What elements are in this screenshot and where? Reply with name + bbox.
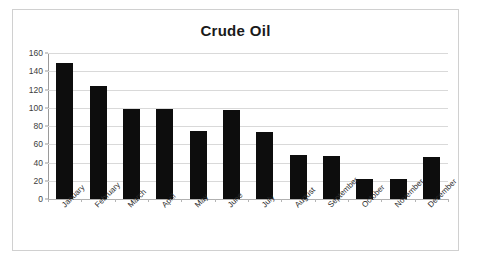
y-tick-label: 120 — [29, 85, 43, 95]
y-tick-label: 40 — [34, 158, 43, 168]
bar — [123, 109, 140, 199]
gridline — [48, 144, 448, 145]
bar — [156, 109, 173, 199]
x-tick-mark — [115, 199, 116, 202]
gridline — [48, 126, 448, 127]
y-tick-mark — [45, 71, 48, 72]
gridline — [48, 90, 448, 91]
y-tick-label: 80 — [34, 121, 43, 131]
gridline — [48, 163, 448, 164]
y-tick-label: 20 — [34, 176, 43, 186]
x-tick-mark — [81, 199, 82, 202]
x-tick-mark — [448, 199, 449, 202]
bar — [223, 110, 240, 199]
x-tick-mark — [181, 199, 182, 202]
y-tick-label: 60 — [34, 139, 43, 149]
plot-area: 020406080100120140160 JanuaryFebruaryMar… — [48, 53, 448, 199]
x-tick-mark — [348, 199, 349, 202]
y-tick-label: 100 — [29, 103, 43, 113]
y-tick-label: 0 — [38, 194, 43, 204]
gridline — [48, 108, 448, 109]
x-tick-mark — [148, 199, 149, 202]
x-tick-mark — [48, 199, 49, 202]
y-tick-mark — [45, 180, 48, 181]
y-tick-label: 160 — [29, 48, 43, 58]
y-tick-mark — [45, 53, 48, 54]
y-tick-mark — [45, 162, 48, 163]
gridline — [48, 53, 448, 54]
chart-title: Crude Oil — [13, 22, 458, 39]
x-tick-mark — [415, 199, 416, 202]
y-tick-mark — [45, 144, 48, 145]
bar — [190, 131, 207, 199]
x-tick-mark — [281, 199, 282, 202]
gridline — [48, 71, 448, 72]
y-tick-mark — [45, 107, 48, 108]
bar — [90, 86, 107, 199]
gridline — [48, 181, 448, 182]
x-tick-mark — [381, 199, 382, 202]
bar — [56, 63, 73, 199]
bar — [256, 132, 273, 199]
y-tick-mark — [45, 89, 48, 90]
y-tick-label: 140 — [29, 66, 43, 76]
chart-container: Crude Oil 020406080100120140160 JanuaryF… — [12, 9, 459, 251]
x-tick-mark — [248, 199, 249, 202]
x-tick-mark — [215, 199, 216, 202]
x-tick-mark — [315, 199, 316, 202]
y-tick-mark — [45, 126, 48, 127]
